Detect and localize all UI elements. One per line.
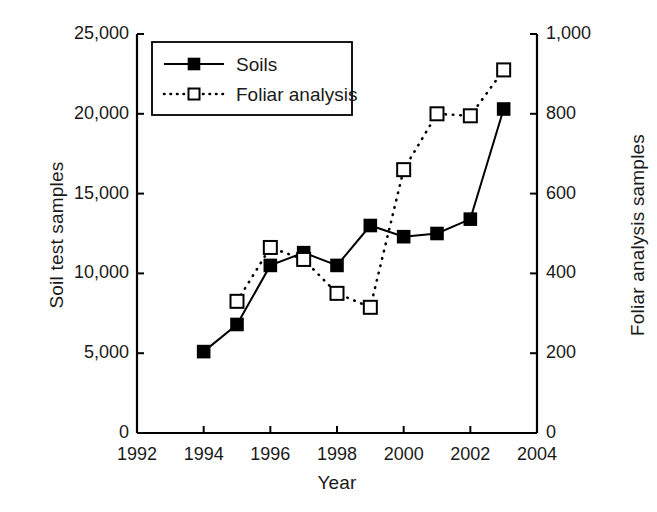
data-point-marker	[331, 287, 344, 300]
chart-figure: Soil test samples Foliar analysis sample…	[0, 0, 657, 512]
data-point-marker	[231, 295, 244, 308]
data-point-marker	[264, 241, 277, 254]
data-point-marker	[464, 109, 477, 122]
data-point-marker	[464, 213, 476, 225]
data-point-marker	[497, 63, 510, 76]
chart-legend: SoilsFoliar analysis	[152, 42, 357, 115]
data-point-marker	[398, 231, 410, 243]
data-point-marker	[498, 103, 510, 115]
series-line	[204, 109, 504, 352]
data-point-marker	[264, 259, 276, 271]
plot-area: SoilsFoliar analysis	[0, 0, 657, 512]
data-point-marker	[431, 228, 443, 240]
legend-marker-sample	[189, 89, 200, 100]
data-point-marker	[364, 220, 376, 232]
data-point-marker	[198, 346, 210, 358]
data-point-marker	[331, 259, 343, 271]
legend-marker-sample	[189, 59, 200, 70]
legend-label: Foliar analysis	[236, 84, 357, 105]
data-point-marker	[231, 318, 243, 330]
data-point-marker	[297, 253, 310, 266]
data-point-marker	[431, 107, 444, 120]
data-point-marker	[364, 301, 377, 314]
series-soils	[198, 103, 510, 358]
data-point-marker	[397, 163, 410, 176]
legend-label: Soils	[236, 54, 277, 75]
